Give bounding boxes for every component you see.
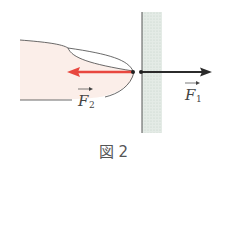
f2-origin-dot [131,70,135,74]
figure-caption: 図 2 [0,140,227,161]
svg-text:1: 1 [196,94,202,104]
svg-text:F: F [184,86,196,104]
svg-text:F: F [77,92,89,110]
f1-origin-dot [139,70,143,74]
f1-label: F 1 [184,81,202,104]
svg-text:2: 2 [89,100,95,110]
